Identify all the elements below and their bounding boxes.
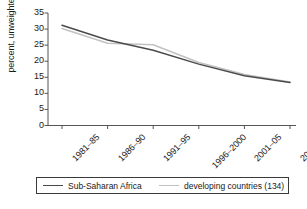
series-lines xyxy=(62,25,290,82)
legend-label: Sub-Saharan Africa xyxy=(68,181,142,191)
legend-item-developing-countries: developing countries (134) xyxy=(159,178,284,193)
legend-swatch-icon xyxy=(43,185,63,186)
legend-item-sub-saharan-africa: Sub-Saharan Africa xyxy=(43,178,142,193)
chart-legend: Sub-Saharan Africa developing countries … xyxy=(36,177,289,194)
legend-swatch-icon xyxy=(159,185,179,186)
axes xyxy=(45,13,297,129)
legend-label: developing countries (134) xyxy=(184,181,284,191)
chart-figure: percent, unweighted 05101520253035 1981–… xyxy=(0,0,307,209)
